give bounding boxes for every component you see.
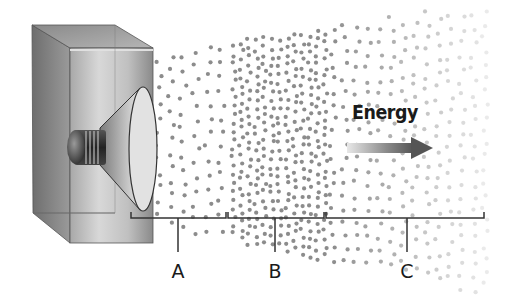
label-ticks [178,218,407,252]
energy-arrow-icon [347,137,433,159]
label-c: C [400,262,413,281]
diagram-canvas [0,0,511,303]
energy-label: Energy [352,101,418,123]
air-particles [154,9,490,294]
speaker-cone-rim [129,87,157,211]
sound-wave-diagram: Energy A B C [0,0,511,303]
label-a: A [172,262,185,281]
speaker [32,25,157,243]
label-b: B [268,262,281,281]
speaker-side-face [32,25,70,243]
speaker-dust-cap [67,130,85,164]
